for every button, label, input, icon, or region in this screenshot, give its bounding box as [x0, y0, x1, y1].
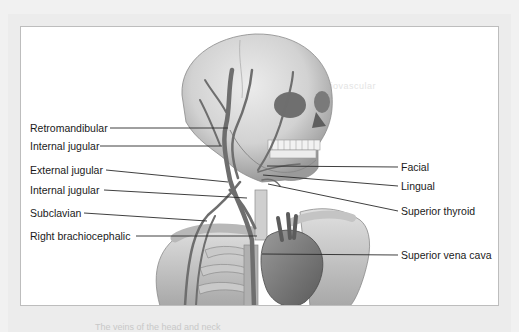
figure-caption: The veins of the head and neck: [95, 322, 221, 332]
label-superior-vena-cava: Superior vena cava: [401, 249, 491, 261]
label-facial: Facial: [401, 161, 429, 173]
label-subclavian: Subclavian: [30, 207, 81, 219]
label-internal-jugular-lower: Internal jugular: [30, 184, 99, 196]
label-internal-jugular-upper: Internal jugular: [30, 140, 99, 152]
label-retromandibular: Retromandibular: [30, 122, 108, 134]
label-external-jugular: External jugular: [30, 164, 103, 176]
label-superior-thyroid: Superior thyroid: [401, 205, 475, 217]
label-lingual: Lingual: [401, 180, 435, 192]
label-right-brachiocephalic: Right brachiocephalic: [30, 230, 130, 242]
